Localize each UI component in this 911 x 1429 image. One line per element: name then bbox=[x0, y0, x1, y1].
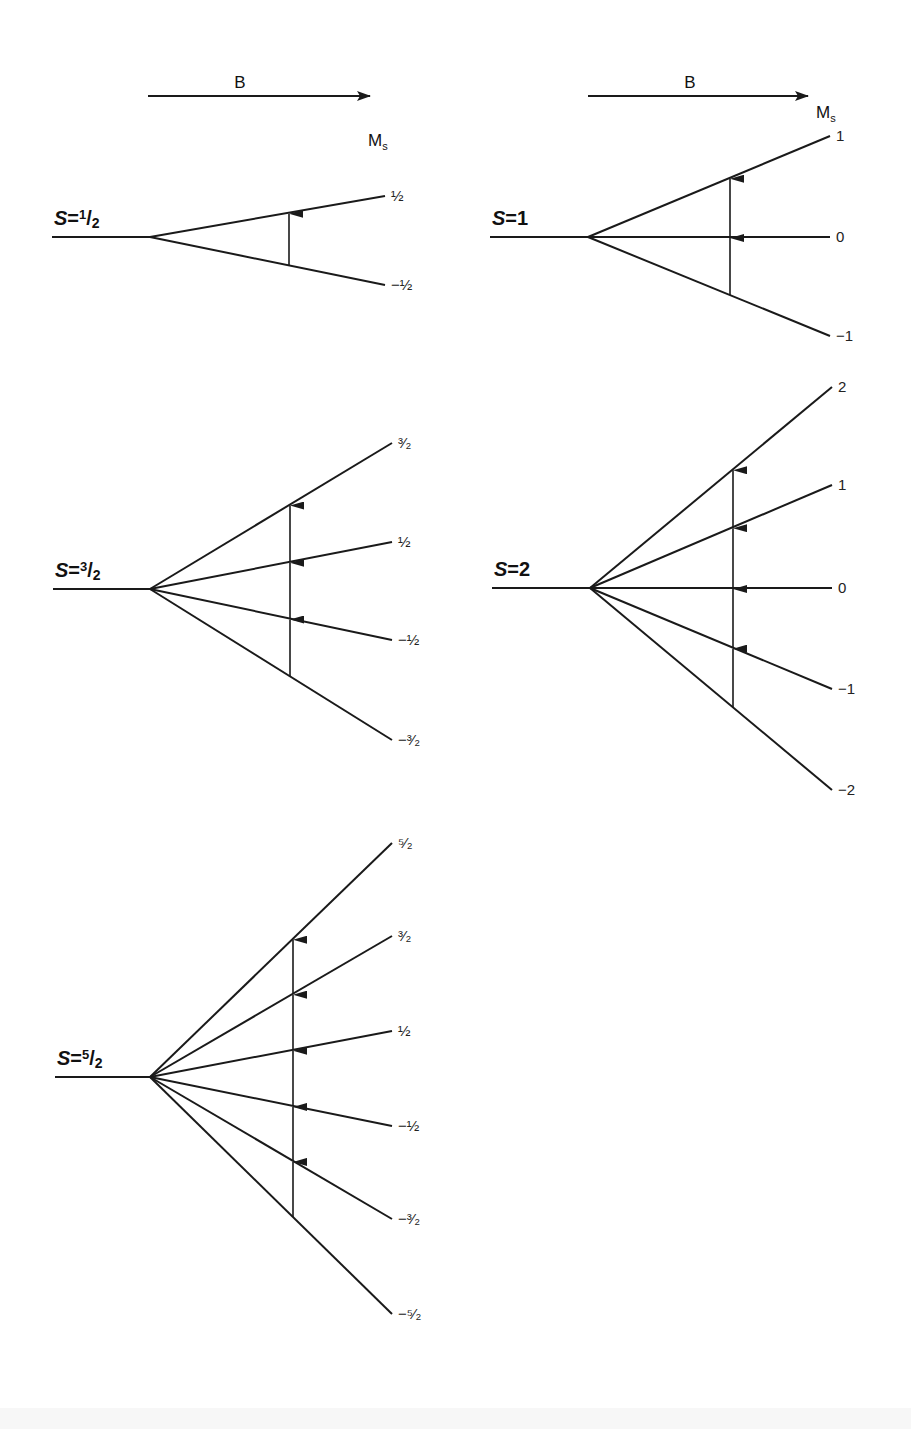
ms-sublevel-line bbox=[150, 196, 385, 237]
ms-value-label: −1 bbox=[836, 327, 853, 344]
ms-value-label: 1 bbox=[836, 127, 844, 144]
ms-sublevel-line bbox=[150, 1077, 392, 1219]
ms-value-label: ½ bbox=[398, 1022, 411, 1039]
ms-sublevel-line bbox=[150, 1031, 392, 1077]
ms-value-label: 0 bbox=[836, 228, 844, 245]
ms-sublevel-line bbox=[150, 443, 392, 589]
ms-sublevel-line bbox=[150, 237, 385, 285]
ms-sublevel-line bbox=[590, 588, 832, 689]
ms-value-label: ³⁄₂ bbox=[398, 434, 412, 451]
zeeman-splitting-diagram: BMsBMs S=1/2½−½S=110−1S=3/2³⁄₂½−½−³⁄₂S=2… bbox=[0, 0, 911, 1429]
ms-value-label: −½ bbox=[391, 276, 413, 293]
ms-sublevel-line bbox=[588, 237, 830, 336]
spin-label: S=5/2 bbox=[57, 1047, 103, 1071]
ms-value-label: −³⁄₂ bbox=[398, 1210, 420, 1227]
ms-value-label: −1 bbox=[838, 680, 855, 697]
ms-sublevel-line bbox=[150, 589, 392, 640]
ms-sublevel-line bbox=[150, 936, 392, 1077]
ms-value-label: ½ bbox=[391, 187, 404, 204]
field-arrows: BMsBMs bbox=[148, 73, 836, 152]
spin-label: S=1/2 bbox=[54, 207, 100, 231]
ms-value-label: −½ bbox=[398, 1117, 420, 1134]
spin-label: S=2 bbox=[494, 558, 530, 580]
field-label: B bbox=[234, 73, 245, 92]
ms-sublevel-line bbox=[150, 1077, 392, 1126]
ms-value-label: −½ bbox=[398, 631, 420, 648]
ms-value-label: ⁵⁄₂ bbox=[398, 834, 413, 851]
ms-sublevel-line bbox=[590, 485, 832, 588]
ms-value-label: 0 bbox=[838, 579, 846, 596]
ms-axis-label: Ms bbox=[816, 103, 836, 124]
ms-value-label: ³⁄₂ bbox=[398, 927, 412, 944]
spin-panels: S=1/2½−½S=110−1S=3/2³⁄₂½−½−³⁄₂S=2210−1−2… bbox=[52, 127, 855, 1322]
ms-axis-label: Ms bbox=[368, 131, 388, 152]
ms-sublevel-line bbox=[590, 387, 832, 588]
ms-sublevel-line bbox=[150, 1077, 392, 1314]
ms-sublevel-line bbox=[150, 542, 392, 589]
panel-s-one: S=110−1 bbox=[490, 127, 853, 344]
field-arrow-group: BMs bbox=[588, 73, 836, 124]
ms-value-label: 2 bbox=[838, 378, 846, 395]
field-arrow-group: BMs bbox=[148, 73, 388, 152]
ms-value-label: 1 bbox=[838, 476, 846, 493]
field-label: B bbox=[684, 73, 695, 92]
ms-value-label: −2 bbox=[838, 781, 855, 798]
panel-s-half: S=1/2½−½ bbox=[52, 187, 413, 293]
spin-label: S=1 bbox=[492, 207, 528, 229]
spin-label: S=3/2 bbox=[55, 559, 101, 583]
ms-value-label: ½ bbox=[398, 533, 411, 550]
ms-sublevel-line bbox=[590, 588, 832, 790]
panel-s-two: S=2210−1−2 bbox=[492, 378, 855, 798]
ms-sublevel-line bbox=[150, 589, 392, 740]
panel-s-three-halves: S=3/2³⁄₂½−½−³⁄₂ bbox=[53, 434, 420, 748]
ms-value-label: −³⁄₂ bbox=[398, 731, 420, 748]
ms-value-label: −⁵⁄₂ bbox=[398, 1305, 421, 1322]
ms-sublevel-line bbox=[588, 136, 830, 237]
ms-sublevel-line bbox=[150, 843, 392, 1077]
panel-s-five-halves: S=5/2⁵⁄₂³⁄₂½−½−³⁄₂−⁵⁄₂ bbox=[55, 834, 421, 1322]
